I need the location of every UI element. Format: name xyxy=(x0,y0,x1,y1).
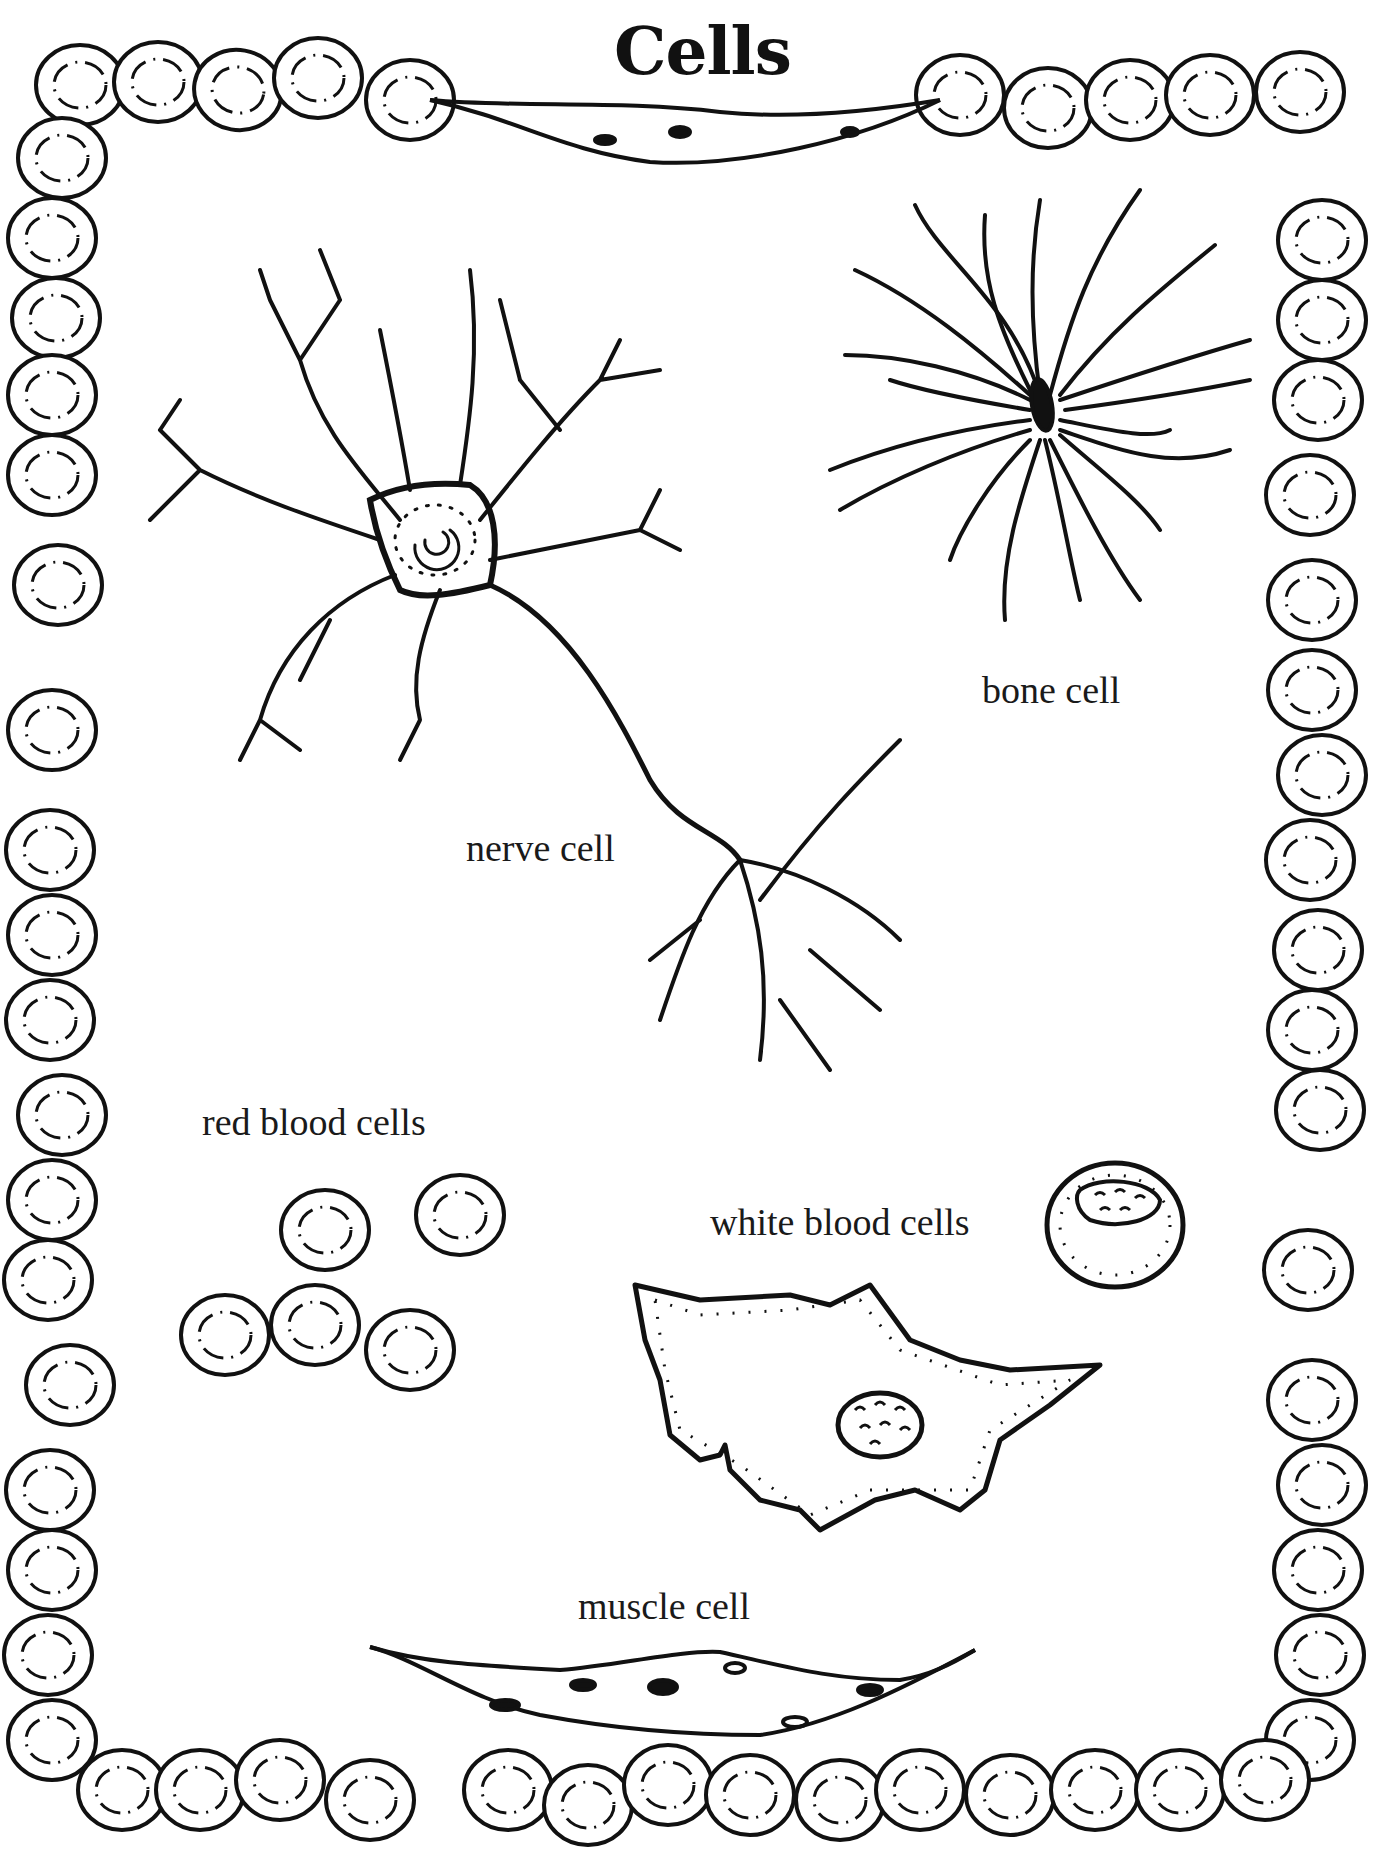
label-bone-cell: bone cell xyxy=(982,668,1120,712)
border-red-blood-cells xyxy=(4,38,1366,1845)
red-blood-cells-drawing xyxy=(181,1175,504,1390)
white-blood-cell-large xyxy=(635,1285,1100,1530)
label-white-blood-cells: white blood cells xyxy=(710,1200,970,1244)
label-red-blood-cells: red blood cells xyxy=(202,1100,426,1144)
bone-cell-drawing xyxy=(830,190,1250,620)
top-muscle-cell xyxy=(430,100,940,163)
white-blood-cell-small xyxy=(1047,1163,1183,1287)
label-nerve-cell: nerve cell xyxy=(466,826,615,870)
nerve-cell-drawing xyxy=(150,250,900,1070)
label-muscle-cell: muscle cell xyxy=(578,1584,750,1628)
muscle-cell-drawing xyxy=(370,1647,975,1735)
